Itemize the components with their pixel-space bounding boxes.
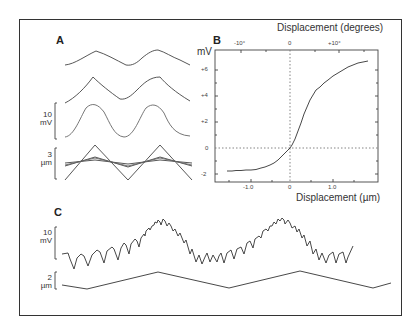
panel-c-voltage-scale-bar (55, 227, 57, 259)
panel-a-stimulus-large (65, 145, 192, 180)
panel-c-voltage-trace (62, 218, 353, 269)
y-ticks (215, 70, 378, 174)
panel-a-trace-3 (65, 105, 190, 137)
panel-a-trace-1 (65, 50, 190, 65)
panel-b-response-curve (227, 61, 368, 171)
panel-c-displacement-scale-bar (55, 272, 57, 289)
panel-a-trace-2 (65, 77, 190, 103)
panel-c-displacement-trace (62, 271, 391, 289)
panel-a-voltage-scale-bar (55, 103, 57, 139)
figure-graphics (0, 0, 418, 330)
panel-a-displacement-scale-bar (55, 148, 57, 179)
panel-b-plot-box (215, 50, 378, 182)
